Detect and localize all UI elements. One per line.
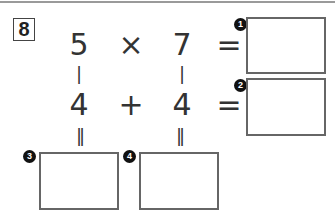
row2-operand-b: 4 bbox=[167, 90, 197, 120]
row1-equals: = bbox=[214, 30, 244, 60]
connector-right-minus: | bbox=[172, 63, 192, 84]
row2-equals: = bbox=[214, 90, 244, 120]
badge-4-icon: 4 bbox=[123, 150, 136, 163]
row1-operator: × bbox=[116, 30, 146, 60]
connector-right-equals: || bbox=[169, 125, 189, 146]
row2-operand-a: 4 bbox=[64, 90, 94, 120]
row2-operator: + bbox=[116, 90, 146, 120]
answer-box-2[interactable] bbox=[246, 78, 326, 136]
answer-box-1[interactable] bbox=[246, 17, 326, 74]
problem-number: 8 bbox=[13, 18, 35, 41]
connector-left-minus: | bbox=[69, 63, 89, 84]
answer-box-3[interactable] bbox=[39, 152, 119, 210]
row1-operand-b: 7 bbox=[167, 30, 197, 60]
row1-operand-a: 5 bbox=[64, 30, 94, 60]
connector-left-equals: || bbox=[69, 125, 89, 146]
answer-box-4[interactable] bbox=[139, 152, 219, 210]
top-divider bbox=[0, 1, 335, 3]
badge-3-icon: 3 bbox=[23, 150, 36, 163]
